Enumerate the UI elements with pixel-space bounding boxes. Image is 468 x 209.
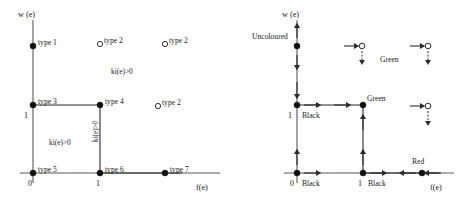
- left-annotation-upper-region: ki(e)>0: [111, 67, 133, 76]
- left-point-type-1-marker: [30, 43, 36, 49]
- right-point-uncoloured-marker: [294, 43, 300, 49]
- left-point-type-5-label: type 5: [38, 165, 57, 174]
- right-y-axis-label: w (e): [282, 10, 299, 19]
- right-open-point-middle-right-marker: [425, 103, 431, 109]
- left-point-type-2-upper-right-marker: [162, 41, 167, 46]
- left-point-type-2-middle-right-label: type 2: [162, 98, 181, 107]
- left-point-type-3-label: type 3: [38, 97, 57, 106]
- right-point-red-marker: [419, 170, 425, 176]
- left-annotation-inner-region: ki(e)>0: [49, 138, 71, 147]
- left-point-type-5-marker: [30, 170, 36, 176]
- figure-container: w (e) f(e) 1 0 1 type 1 type 2: [0, 0, 468, 209]
- left-point-type-7-marker: [162, 170, 168, 176]
- right-open-point-upper-left-marker: [359, 43, 365, 49]
- right-label-green-upper: Green: [380, 55, 399, 64]
- left-point-type-1-label: type 1: [38, 38, 57, 47]
- left-y-axis-label: w (e): [18, 10, 35, 19]
- right-open-point-upper-right-marker: [425, 43, 431, 49]
- left-point-type-7-label: type 7: [170, 165, 189, 174]
- right-y-tick-1: 1: [288, 111, 292, 120]
- left-panel-plot: w (e) f(e) 1 0 1 type 1 type 2: [0, 0, 234, 209]
- right-x-tick-0: 0: [290, 179, 294, 188]
- left-x-tick-0: 0: [28, 179, 32, 188]
- right-point-black-y1-marker: [294, 102, 300, 108]
- left-x-tick-1: 1: [96, 179, 100, 188]
- left-point-type-2-upper-right-label: type 2: [169, 36, 188, 45]
- right-point-black-y1-label: Black: [302, 111, 320, 120]
- right-panel-plot: w (e) f(e) 1 0 1: [234, 0, 468, 209]
- right-point-red-label: Red: [412, 157, 424, 166]
- right-panel-colour-classification: w (e) f(e) 1 0 1: [234, 0, 468, 209]
- left-point-type-4-label: type 4: [105, 97, 124, 106]
- right-x-axis-label: f(e): [430, 183, 442, 192]
- left-point-type-2-upper-left-label: type 2: [104, 36, 123, 45]
- left-y-tick-1: 1: [24, 111, 28, 120]
- left-point-type-6-marker: [97, 170, 103, 176]
- left-point-type-6-label: type 6: [105, 165, 124, 174]
- right-point-uncoloured-label: Uncoloured: [252, 32, 288, 41]
- left-point-type-4-marker: [97, 102, 103, 108]
- left-annotation-vertical-edge: ki(e)>0: [92, 120, 100, 142]
- left-x-axis-label: f(e): [196, 183, 208, 192]
- right-point-black-origin-marker: [294, 170, 300, 176]
- right-point-black-x1-marker: [360, 170, 366, 176]
- left-point-type-2-upper-left-marker: [97, 41, 102, 46]
- right-point-green-corner-label: Green: [367, 94, 386, 103]
- left-panel-classification-types: w (e) f(e) 1 0 1 type 1 type 2: [0, 0, 234, 209]
- right-point-black-origin-label: Black: [302, 179, 320, 188]
- right-point-green-corner-marker: [360, 102, 366, 108]
- right-x-tick-1: 1: [358, 179, 362, 188]
- left-point-type-2-middle-right-marker: [155, 103, 160, 108]
- left-point-type-3-marker: [30, 102, 36, 108]
- right-point-black-x1-label: Black: [368, 179, 386, 188]
